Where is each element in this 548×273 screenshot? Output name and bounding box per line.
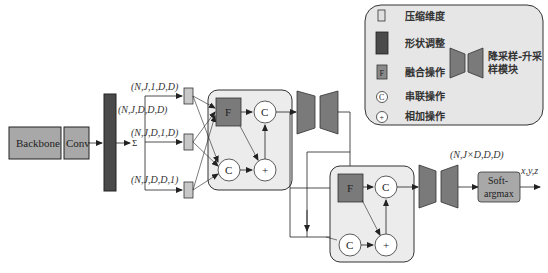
fusion-label-1: F [225, 106, 231, 118]
legend-reshape-icon [376, 32, 388, 54]
pipeline-diagram: 压缩维度 形状调整 F 融合操作 C 串联操作 + 相加操作 降采样-升采 样模… [0, 0, 548, 273]
concat-label-2b: C [346, 239, 353, 251]
legend-updown-label-1: 降采样-升采 [488, 50, 542, 62]
updown-module-2 [419, 165, 458, 208]
softargmax-label-2: argmax [484, 188, 514, 199]
legend-add-label: 相加操作 [405, 110, 445, 122]
compress-block-2 [184, 134, 193, 150]
concat-label-1a: C [261, 106, 268, 118]
output-xyz-label: x,y,z [520, 165, 538, 176]
legend-concat-glyph: C [379, 93, 384, 102]
updown-module-1 [297, 91, 338, 134]
concat-label-1b: C [225, 164, 232, 176]
fusion-group-2: F C C + [330, 166, 414, 262]
shape-label-mid: (N,J,D,1,D) [131, 127, 179, 139]
shape-label-output: (N,J×D,D,D) [450, 149, 504, 161]
shape-label-full: (N,J,D,D,D) [118, 104, 168, 116]
legend-concat-label: 串联操作 [405, 90, 445, 102]
legend-compress-icon [378, 10, 385, 21]
compress-block-1 [184, 88, 193, 104]
backbone-label: Backbone [16, 137, 60, 149]
legend: 压缩维度 形状调整 F 融合操作 C 串联操作 + 相加操作 降采样-升采 样模… [365, 5, 543, 125]
legend-fusion-glyph: F [380, 69, 385, 78]
legend-compress-label: 压缩维度 [405, 10, 446, 22]
add-label-2: + [383, 239, 389, 251]
compress-block-3 [184, 182, 193, 198]
add-label-1: + [262, 164, 268, 176]
concat-label-2a: C [382, 181, 389, 193]
legend-add-glyph: + [380, 113, 385, 122]
softargmax-label-1: Soft- [488, 175, 508, 186]
shape-label-top: (N,J,1,D,D) [131, 81, 179, 93]
conv-label: Conv [66, 137, 90, 149]
fusion-label-2: F [347, 182, 353, 194]
fusion-group-1: F C C + [208, 90, 292, 190]
legend-reshape-label: 形状调整 [405, 37, 445, 49]
sum-symbol: Σ [132, 138, 137, 148]
legend-fusion-label: 融合操作 [405, 66, 445, 78]
legend-updown-label-2: 样模块 [488, 63, 519, 75]
shape-label-bot: (N,J,D,D,1) [131, 174, 179, 186]
reshape-block [104, 94, 116, 191]
